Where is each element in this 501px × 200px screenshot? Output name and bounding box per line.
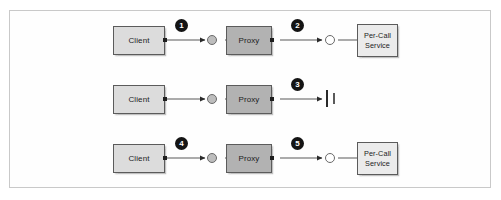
row-1-client-node[interactable]: Client: [113, 26, 165, 55]
blocked-bar-short: [333, 93, 335, 104]
row-2-proxy-label: Proxy: [238, 95, 261, 105]
row-1-proxy-label: Proxy: [238, 36, 261, 46]
row-3-service-port: [325, 153, 335, 163]
row-1-proxy-port: [207, 35, 217, 45]
row-3-proxy-tail: [270, 156, 274, 160]
row-1-service-node[interactable]: Per-Call Service: [357, 24, 398, 57]
row-3-client-label: Client: [127, 154, 150, 164]
row-3-proxy-label: Proxy: [238, 154, 261, 164]
row-3-client-node[interactable]: Client: [113, 144, 165, 173]
row-2-proxy-port: [207, 94, 217, 104]
row-1-client-tail: [163, 38, 167, 42]
row-3-proxy-node[interactable]: Proxy: [226, 144, 272, 173]
row-2-blocked-marker: [326, 90, 338, 108]
row-1-badge-1: 1: [175, 19, 188, 32]
row-1-badge-2: 2: [291, 19, 304, 32]
row-3-proxy-port: [207, 153, 217, 163]
row-2-proxy-tail: [270, 97, 274, 101]
row-1-service-label-line1: Per-Call: [363, 31, 392, 40]
row-3-service-label-line2: Service: [363, 159, 392, 168]
row-2-proxy-node[interactable]: Proxy: [226, 85, 272, 114]
row-2-client-node[interactable]: Client: [113, 85, 165, 114]
row-1-proxy-node[interactable]: Proxy: [226, 26, 272, 55]
row-3-service-label: Per-Call Service: [363, 149, 392, 167]
row-2-client-label: Client: [127, 95, 150, 105]
row-1-proxy-tail: [270, 38, 274, 42]
row-3-service-label-line1: Per-Call: [363, 149, 392, 158]
row-3-badge-4: 4: [175, 137, 188, 150]
diagram-figure: Client Proxy Per-Call Service 1 2 Client…: [0, 0, 501, 200]
row-3-client-tail: [163, 156, 167, 160]
row-2-badge-3: 3: [291, 78, 304, 91]
row-1-service-label: Per-Call Service: [363, 31, 392, 49]
row-3-badge-5: 5: [291, 137, 304, 150]
row-1-service-label-line2: Service: [363, 41, 392, 50]
row-1-client-label: Client: [127, 36, 150, 46]
blocked-bar-tall: [326, 90, 328, 107]
row-3-service-node[interactable]: Per-Call Service: [357, 142, 398, 175]
row-2-client-tail: [163, 97, 167, 101]
row-1-service-port: [325, 35, 335, 45]
